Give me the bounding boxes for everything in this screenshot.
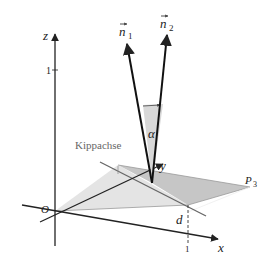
svg-text:1: 1 [128,31,133,41]
diagram-canvas: z 1 O x 1 y Kippachse α d P 3 n 1 n 2 [0,0,270,262]
svg-text:2: 2 [169,23,174,33]
svg-text:n: n [160,16,167,31]
svg-text:3: 3 [253,180,257,189]
kippachse-label: Kippachse [75,139,122,151]
svg-text:n: n [119,24,126,39]
x-axis [22,205,218,239]
alpha-label: α [148,126,156,141]
svg-text:P: P [244,174,252,186]
z-tick-label: 1 [46,65,51,76]
x-tick-label: 1 [185,244,190,254]
n1-label: n 1 [119,24,133,41]
z-axis-label: z [42,28,48,43]
x-axis-label: x [217,240,224,255]
n2-label: n 2 [160,16,174,33]
origin-label: O [41,203,49,215]
y-axis-label: y [158,158,166,173]
distance-label: d [176,212,183,227]
